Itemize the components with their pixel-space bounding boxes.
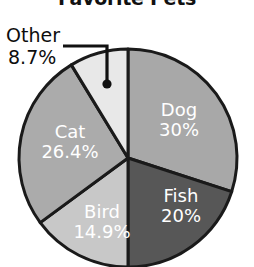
pie-chart-figure: Favorite Pets Other 8.7% Dog 30% Cat 26.… [0,0,254,267]
slice-callout-label-other-percent: 8.7% [8,46,56,68]
pie-slices-group [19,49,237,267]
slice-callout-label-other-name: Other [6,24,60,46]
leader-line-dot [102,79,111,88]
